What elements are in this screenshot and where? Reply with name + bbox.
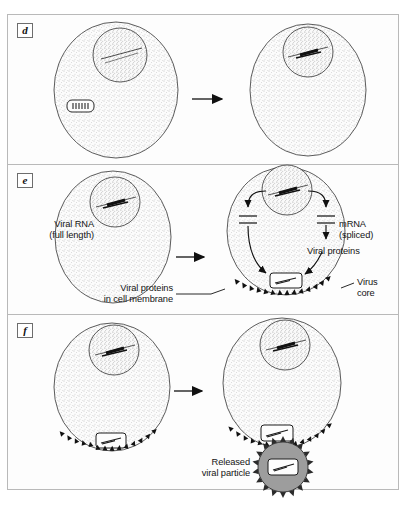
figure-frame: d [7,14,399,490]
panel-d: d [8,15,398,164]
mrna-label: mRNA(spliced) [339,219,373,240]
virus-core-icon [96,433,126,448]
nucleus-icon [93,28,147,82]
cell-left-d [54,22,178,158]
virus-core-label: Viruscore [357,277,378,298]
panel-d-graphic [8,15,400,164]
cell-right-d [250,24,366,156]
panel-e: e [8,164,398,314]
panel-f: f [8,314,398,490]
viral-core-icon [67,100,94,112]
budding-virus-core-icon [261,425,293,441]
released-virion-icon [252,436,314,498]
membrane-proteins-label: Viral proteinsin cell membrane [18,283,173,304]
cell-right-e [227,165,345,295]
released-particle-label: Releasedviral particle [168,457,250,478]
cell-left-f [54,323,170,451]
virus-core-icon [270,273,302,288]
cell-right-f [223,318,341,448]
viral-rna-label: Viral RNA(full length) [30,219,94,240]
viral-proteins-label: Viral proteins [307,246,360,257]
